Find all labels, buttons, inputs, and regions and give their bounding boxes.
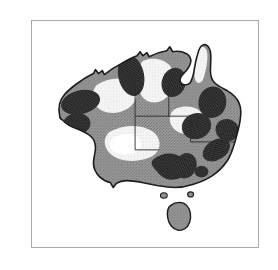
- edge-text-column: eetnle,o: [0, 0, 14, 270]
- australia-map: [32, 21, 258, 247]
- tasmania: [167, 202, 190, 230]
- figure-frame: [31, 20, 259, 248]
- australia-map-svg: [32, 21, 258, 247]
